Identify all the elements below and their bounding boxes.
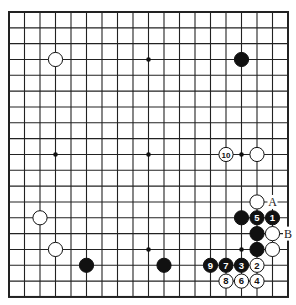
move-number-label: 1 [270, 212, 276, 223]
point-marker-label: A [268, 195, 277, 209]
white-stone [265, 227, 279, 241]
black-stone [250, 227, 264, 241]
white-stone [250, 195, 264, 209]
go-board: AB10519732864 [0, 0, 296, 305]
white-stone [48, 242, 62, 256]
star-point [239, 152, 244, 157]
move-number-label: 4 [254, 275, 260, 286]
move-number-label: 9 [208, 260, 213, 271]
point-marker-label: B [284, 227, 292, 241]
move-number-label: 2 [254, 260, 259, 271]
black-stone [234, 211, 248, 225]
star-point [53, 152, 58, 157]
black-stone [157, 258, 171, 272]
move-number-label: 3 [239, 260, 244, 271]
white-stone [48, 52, 62, 66]
white-stone [250, 147, 264, 161]
star-point [146, 247, 151, 252]
star-point [146, 57, 151, 62]
white-stone [33, 211, 47, 225]
move-number-label: 5 [254, 212, 260, 223]
star-point [239, 247, 244, 252]
move-number-label: 8 [223, 275, 228, 286]
star-point [146, 152, 151, 157]
black-stone [234, 52, 248, 66]
black-stone [79, 258, 93, 272]
white-stone [265, 242, 279, 256]
move-number-label: 10 [222, 151, 231, 160]
black-stone [250, 242, 264, 256]
move-number-label: 7 [223, 260, 228, 271]
move-number-label: 6 [239, 275, 244, 286]
